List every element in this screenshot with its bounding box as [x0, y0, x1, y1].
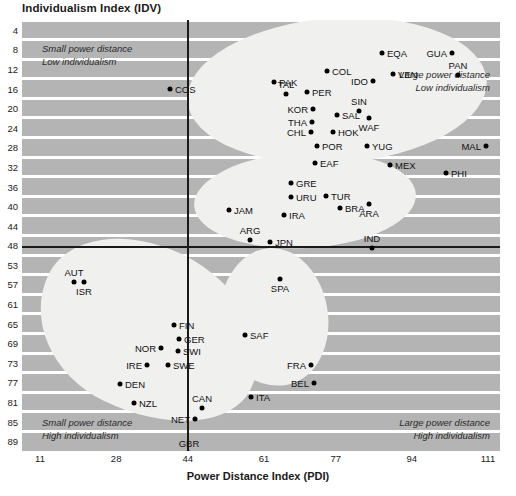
- data-point: [72, 280, 77, 285]
- data-point-label: TAL: [278, 79, 295, 90]
- y-axis-tick: 81: [7, 397, 18, 408]
- data-point: [305, 90, 310, 95]
- data-point: [371, 79, 376, 84]
- y-axis-tick: 73: [7, 357, 18, 368]
- data-point-label: FIN: [179, 320, 194, 331]
- data-point-label: EAF: [320, 158, 338, 169]
- data-point: [456, 73, 461, 78]
- data-point-label: SWE: [173, 360, 195, 371]
- data-point: [310, 120, 315, 125]
- data-point-label: VEN: [398, 69, 418, 80]
- y-axis-tick: 44: [7, 220, 18, 231]
- quadrant-line-2: High individualism: [42, 429, 132, 442]
- page-title: Individualism Index (IDV): [22, 2, 161, 14]
- x-axis: 112844617794111: [22, 453, 500, 471]
- quadrant-line-2: Low individualism: [399, 81, 490, 94]
- data-point: [311, 107, 316, 112]
- y-axis-tick: 65: [7, 318, 18, 329]
- data-point-label: SIN: [351, 96, 367, 107]
- data-point: [145, 363, 150, 368]
- data-point: [268, 240, 273, 245]
- data-point-label: IND: [364, 233, 380, 244]
- y-axis-tick: 12: [7, 63, 18, 74]
- y-axis-tick: 89: [7, 436, 18, 447]
- data-point-label: GER: [184, 334, 205, 345]
- data-point: [118, 382, 123, 387]
- grid-band: [22, 410, 500, 413]
- data-point: [335, 113, 340, 118]
- y-axis-tick: 8: [13, 44, 18, 55]
- data-point-label: IDO: [351, 76, 368, 87]
- data-point-label: AUT: [65, 267, 84, 278]
- data-point-label: IRE: [126, 360, 142, 371]
- data-point-label: CAN: [192, 393, 212, 404]
- data-point-label: SAF: [250, 330, 268, 341]
- data-point-label: JAM: [234, 205, 253, 216]
- data-point-label: IRA: [289, 210, 305, 221]
- y-axis-tick: 53: [7, 259, 18, 270]
- data-point: [309, 130, 314, 135]
- data-point-label: GUA: [426, 48, 447, 59]
- data-point-label: GRE: [296, 178, 317, 189]
- data-point: [309, 363, 314, 368]
- plot-area: Small power distance Low individualism L…: [22, 20, 500, 451]
- data-point: [82, 280, 87, 285]
- y-axis-tick: 16: [7, 83, 18, 94]
- data-point-label: MEX: [395, 160, 416, 171]
- data-point-label: ARG: [240, 225, 261, 236]
- quadrant-line-2: High individualism: [399, 429, 490, 442]
- data-point: [243, 333, 248, 338]
- data-point: [313, 161, 318, 166]
- data-point-label: ARA: [359, 208, 379, 219]
- data-point-label: FRA: [287, 360, 306, 371]
- y-axis-tick: 48: [7, 240, 18, 251]
- data-point: [272, 80, 277, 85]
- data-point-label: NOR: [135, 343, 156, 354]
- data-point-label: PER: [312, 87, 332, 98]
- y-axis-tick: 36: [7, 181, 18, 192]
- y-axis-tick: 77: [7, 377, 18, 388]
- y-axis-tick: 20: [7, 103, 18, 114]
- data-point: [391, 72, 396, 77]
- quadrant-label-top-left: Small power distance Low individualism: [42, 42, 132, 68]
- data-point-label: CHL: [287, 127, 306, 138]
- y-axis: 4812162024283236404448535761656973778185…: [0, 20, 22, 451]
- x-axis-tick: 111: [481, 453, 495, 464]
- data-point: [168, 87, 173, 92]
- data-point-label: SWI: [183, 346, 201, 357]
- data-point: [282, 213, 287, 218]
- data-point: [132, 401, 137, 406]
- data-point: [380, 51, 385, 56]
- data-point-label: NZL: [139, 398, 157, 409]
- data-point: [177, 337, 182, 342]
- data-point: [172, 323, 177, 328]
- data-point-label: MAL: [461, 141, 481, 152]
- y-axis-tick: 4: [13, 24, 18, 35]
- quadrant-line-2: Low individualism: [42, 55, 132, 68]
- data-point: [444, 171, 449, 176]
- data-point: [388, 163, 393, 168]
- data-point: [193, 417, 198, 422]
- data-point: [248, 238, 253, 243]
- y-axis-tick: 85: [7, 416, 18, 427]
- data-point-label: KOR: [287, 104, 308, 115]
- data-point: [159, 346, 164, 351]
- data-point-label: ISR: [76, 286, 92, 297]
- quadrant-line-1: Small power distance: [42, 416, 132, 429]
- data-point: [187, 451, 192, 452]
- x-axis-tick: 77: [330, 453, 341, 464]
- y-axis-tick: 61: [7, 299, 18, 310]
- data-point-label: PAN: [449, 60, 468, 71]
- x-axis-tick: 61: [259, 453, 270, 464]
- data-point: [370, 246, 375, 251]
- data-point: [278, 277, 283, 282]
- data-point: [331, 130, 336, 135]
- quadrant-label-bottom-right: Large power distance High individualism: [399, 416, 490, 442]
- data-point-label: JPN: [275, 237, 293, 248]
- data-point: [289, 181, 294, 186]
- data-point-label: YUG: [372, 141, 393, 152]
- quadrant-line-1: Large power distance: [399, 416, 490, 429]
- data-point-label: COS: [175, 84, 196, 95]
- quadrant-line-1: Small power distance: [42, 42, 132, 55]
- data-point-label: URU: [296, 192, 317, 203]
